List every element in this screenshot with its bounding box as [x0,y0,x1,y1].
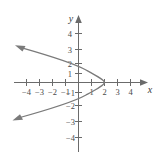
y-tick-label-neg3: −3 [66,117,75,127]
x-tick-label-pos4: 4 [128,87,133,97]
x-tick-label-pos3: 3 [115,87,119,97]
y-axis-arrowhead-icon [75,15,82,23]
x-axis-label: x [147,84,153,95]
x-tick-label-pos2: 2 [102,87,106,97]
x-tick-label-neg3: −3 [35,87,44,97]
x-tick-label-neg2: −2 [48,87,57,97]
x-tick-label-neg4: −4 [22,87,32,97]
parabola-upper-arrowhead-icon [15,45,26,51]
y-tick-label-neg4: −4 [66,133,76,143]
parabola-lower-arrowhead-icon [13,114,24,120]
axes-group [14,15,148,152]
y-tick-label-neg1: −1 [66,88,75,98]
y-tick-labels-group: 4 3 2 1 −1 −2 −3 −4 [66,29,76,143]
coordinate-plane-svg: −4 −3 −2 −1 1 2 3 4 4 3 2 1 −1 −2 −3 −4 … [0,0,160,163]
y-tick-label-pos1: 1 [68,69,72,79]
y-tick-label-pos3: 3 [68,45,72,55]
graph-figure: −4 −3 −2 −1 1 2 3 4 4 3 2 1 −1 −2 −3 −4 … [0,0,160,163]
y-axis-label: y [68,13,74,24]
y-tick-label-pos4: 4 [68,29,73,39]
